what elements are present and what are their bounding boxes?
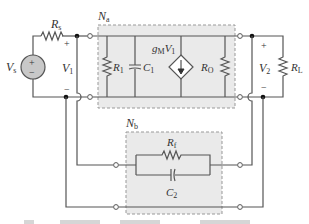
svg-text:+: + [261,40,267,51]
rl-label: RL [290,61,303,75]
svg-text:+: + [64,38,70,49]
source-minus: − [29,67,35,78]
nb-label: Nb [125,116,138,131]
source-resistor-symbol [41,32,63,40]
svg-text:−: − [261,82,267,93]
vs-label: Vs [6,60,16,75]
output-loop [238,34,287,210]
terminal-a-in-top [88,34,93,39]
rs-label: Rs [50,17,61,32]
caption-cropped [24,220,250,224]
circuit-diagram: Vs + − Rs + V1 − Na R1 C1 gMV1 RO + V2 −… [0,0,309,224]
v1-label: V1 [62,61,73,76]
na-label: Na [97,9,110,24]
v2-label: V2 [259,61,270,76]
terminal-a-in-bottom [88,95,93,100]
svg-text:−: − [64,84,70,95]
